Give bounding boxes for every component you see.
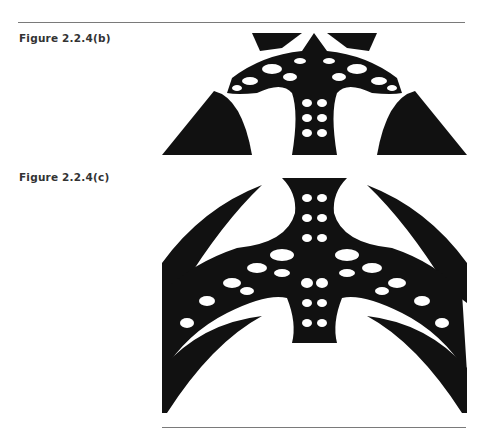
fractal-figure-c <box>162 173 467 415</box>
figure-caption-c: Figure 2.2.4(c) <box>19 171 109 183</box>
bottom-rule <box>162 427 466 428</box>
top-rule <box>18 22 465 23</box>
fractal-figure-b <box>162 33 467 155</box>
figure-caption-b: Figure 2.2.4(b) <box>19 32 111 44</box>
